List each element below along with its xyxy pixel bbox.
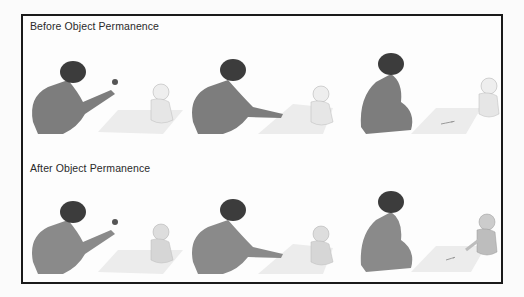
blanket (411, 108, 481, 134)
baby-body (151, 239, 173, 263)
rattle-toy-icon (112, 79, 118, 85)
scene-before-show-toy (23, 42, 183, 142)
baby-head (153, 224, 169, 240)
adult-hair (220, 59, 246, 81)
baby-head (481, 78, 497, 94)
adult-figure (361, 212, 412, 272)
row-title-after: After Object Permanence (30, 162, 150, 174)
scene-after-hide-toy (183, 180, 343, 280)
baby-body (477, 229, 497, 255)
baby-body (151, 99, 173, 123)
baby-head (313, 226, 329, 242)
adult-hair (378, 53, 404, 75)
baby-body (479, 93, 499, 117)
rattle-toy-icon (112, 219, 118, 225)
figure-frame: Before Object Permanence After Object Pe… (21, 14, 503, 284)
adult-figure (32, 80, 115, 134)
baby-body (311, 101, 333, 125)
adult-hair (378, 191, 404, 213)
baby-head (313, 86, 329, 102)
row-title-before: Before Object Permanence (30, 20, 159, 32)
scene-after-show-toy (23, 180, 183, 280)
adult-figure (361, 74, 412, 134)
baby-head (479, 214, 495, 230)
scene-after-baby-searches (341, 180, 501, 280)
adult-hair (220, 199, 246, 221)
adult-figure (32, 220, 115, 274)
scene-before-hide-toy (183, 42, 343, 142)
scene-before-toy-hidden (341, 42, 501, 142)
baby-body (311, 241, 333, 265)
baby-head (153, 84, 169, 100)
adult-hair (60, 201, 86, 223)
adult-hair (60, 61, 86, 83)
